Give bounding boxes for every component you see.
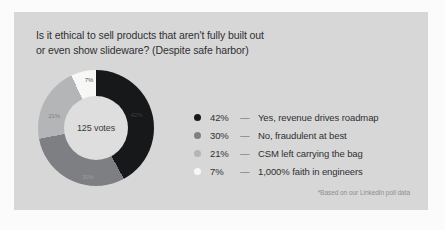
legend-percent: 42% xyxy=(210,112,240,123)
chart-legend: 42% — Yes, revenue drives roadmap 30% — … xyxy=(194,108,426,180)
legend-swatch-icon xyxy=(194,150,201,157)
legend-label: Yes, revenue drives roadmap xyxy=(258,112,426,123)
legend-swatch-icon xyxy=(194,168,201,175)
donut-chart: 42% 30% 21% 7% 125 votes xyxy=(38,70,154,186)
total-votes-label: 125 votes xyxy=(77,123,115,133)
legend-percent: 30% xyxy=(210,130,240,141)
legend-item: 7% — 1,000% faith in engineers xyxy=(194,162,426,180)
slice-label-3: 21% xyxy=(48,113,60,119)
legend-label: No, fraudulent at best xyxy=(258,130,426,141)
legend-item: 42% — Yes, revenue drives roadmap xyxy=(194,108,426,126)
slice-label-4: 7% xyxy=(85,77,93,83)
source-footnote: *Based on our LinkedIn poll data xyxy=(318,189,410,196)
poll-question-title: Is it ethical to sell products that aren… xyxy=(36,28,376,58)
legend-swatch-icon xyxy=(194,114,201,121)
legend-dash: — xyxy=(240,130,258,141)
donut-hole: 125 votes xyxy=(64,96,128,160)
screenshot-canvas: Is it ethical to sell products that aren… xyxy=(0,0,445,230)
legend-item: 21% — CSM left carrying the bag xyxy=(194,144,426,162)
legend-percent: 21% xyxy=(210,148,240,159)
legend-label: 1,000% faith in engineers xyxy=(258,166,426,177)
legend-dash: — xyxy=(240,112,258,123)
legend-item: 30% — No, fraudulent at best xyxy=(194,126,426,144)
poll-result-card: Is it ethical to sell products that aren… xyxy=(14,12,428,210)
slice-label-2: 30% xyxy=(82,174,94,180)
legend-dash: — xyxy=(240,166,258,177)
slice-label-1: 42% xyxy=(131,112,143,118)
legend-dash: — xyxy=(240,148,258,159)
legend-percent: 7% xyxy=(210,166,240,177)
legend-label: CSM left carrying the bag xyxy=(258,148,426,159)
legend-swatch-icon xyxy=(194,132,201,139)
